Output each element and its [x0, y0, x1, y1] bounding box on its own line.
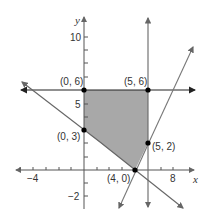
tick-label-neg4: −4 [27, 173, 39, 184]
x-axis [16, 167, 194, 170]
y-axis-label: y [74, 14, 80, 26]
x-axis-label: x [192, 173, 198, 185]
point-label-5-2: (5, 2) [152, 141, 175, 152]
tick-label-neg2: −2 [68, 191, 80, 202]
point-label-0-3: (0, 3) [57, 131, 80, 142]
tick-label-10: 10 [70, 32, 82, 43]
line-steep [150, 47, 193, 140]
point-label-0-6: (0, 6) [60, 76, 83, 87]
tick-label-5: 5 [75, 99, 81, 110]
vertex-4-0 [132, 167, 137, 172]
vertex-5-2 [145, 140, 150, 145]
tick-label-8: 8 [170, 173, 176, 184]
vertex-0-3 [81, 127, 86, 132]
vertex-5-6 [145, 87, 150, 92]
feasible-region [84, 90, 148, 170]
point-label-5-6: (5, 6) [124, 76, 147, 87]
point-label-4-0: (4, 0) [107, 173, 130, 184]
feasible-region-graph: y x 10 5 −2 −4 8 (0, 6) (5, 6) (0, 3) (5… [0, 0, 208, 217]
vertex-0-6 [81, 87, 86, 92]
